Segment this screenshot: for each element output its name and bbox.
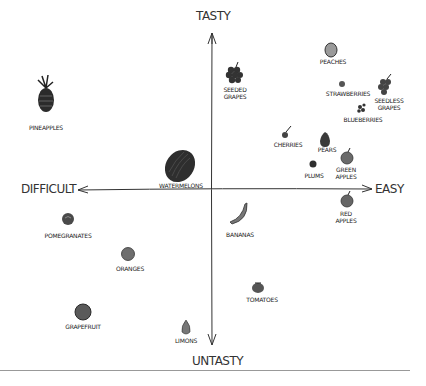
grapefruit-icon [75, 304, 91, 320]
label-bananas: BANANAS [226, 231, 254, 238]
label-cherries: CHERRIES [274, 141, 303, 148]
label-watermelons: WATERMELONS [159, 182, 203, 189]
pineapple-icon [38, 75, 54, 112]
label-pears: PEARS [318, 146, 337, 153]
bottom-rule [0, 370, 410, 371]
label-oranges: ORANGES [116, 265, 144, 272]
label-red-apples: RED APPLES [335, 210, 356, 224]
label-seeded-grapes: SEEDED GRAPES [223, 86, 246, 100]
green-apple-icon [341, 148, 353, 164]
pear-icon [320, 132, 330, 147]
label-grapefruit: GRAPEFRUIT [65, 323, 101, 330]
peach-icon [325, 43, 337, 57]
seedless-grapes-icon [378, 74, 391, 95]
blueberries-icon [357, 103, 365, 112]
axis-label-tasty: TASTY [196, 9, 230, 23]
pomegranate-icon [62, 213, 74, 225]
limon-icon [182, 320, 190, 334]
label-tomatoes: TOMATOES [246, 296, 278, 303]
axis-label-untasty: UNTASTY [192, 354, 243, 368]
label-seedless-grapes: SEEDLESS GRAPES [374, 97, 403, 111]
label-pineapples: PINEAPPLES [29, 124, 63, 131]
plum-icon [310, 161, 317, 168]
strawberry-icon [339, 81, 345, 87]
label-limons: LIMONS [175, 337, 197, 344]
axis-label-easy: EASY [375, 182, 404, 196]
label-green-apples: GREEN APPLES [335, 166, 356, 180]
label-plums: PLUMS [304, 172, 323, 179]
cherry-icon [282, 126, 291, 138]
label-strawberries: STRAWBERRIES [326, 90, 370, 97]
horizontal-axis [78, 185, 372, 193]
seeded-grapes-icon [226, 62, 243, 83]
banana-icon [230, 203, 247, 224]
axis-label-difficult: DIFFICULT [21, 182, 76, 196]
label-blueberries: BLUEBERRIES [344, 116, 383, 123]
red-apple-icon [341, 191, 353, 207]
orange-icon [122, 248, 135, 261]
label-pomegranates: POMEGRANATES [45, 232, 92, 239]
label-peaches: PEACHES [320, 58, 346, 65]
tomato-icon [252, 283, 264, 293]
